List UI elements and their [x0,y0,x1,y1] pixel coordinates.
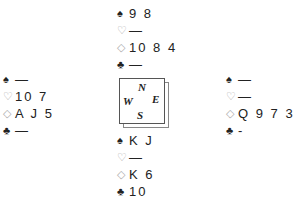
south-diamonds: ◇K 6 [117,166,155,183]
west-diamonds: ◇A J 5 [3,105,54,122]
compass-north-label: N [138,81,146,93]
heart-icon: ♡ [3,88,15,105]
diamond-icon: ◇ [117,39,129,56]
north-hand: ♠9 8 ♡— ◇10 8 4 ♣— [117,5,177,73]
east-hearts: ♡— [226,88,295,105]
diamond-icon: ◇ [117,166,129,183]
compass-east-label: E [152,93,159,105]
north-clubs: ♣— [117,56,177,73]
heart-icon: ♡ [117,22,129,39]
compass-west-label: W [123,95,133,107]
club-icon: ♣ [3,122,15,139]
south-spades: ♠K J [117,132,155,149]
south-hand: ♠K J ♡— ◇K 6 ♣10 [117,132,155,200]
club-icon: ♣ [117,183,129,200]
north-diamonds: ◇10 8 4 [117,39,177,56]
east-clubs: ♣- [226,122,295,139]
spade-icon: ♠ [3,71,15,88]
east-diamonds: ◇Q 9 7 3 2 [226,105,295,122]
west-hearts: ♡10 7 [3,88,54,105]
compass-box: N W E S [119,78,165,124]
heart-icon: ♡ [117,149,129,166]
spade-icon: ♠ [226,71,238,88]
club-icon: ♣ [226,122,238,139]
club-icon: ♣ [117,56,129,73]
south-hearts: ♡— [117,149,155,166]
east-hand: ♠— ♡— ◇Q 9 7 3 2 ♣- [226,71,295,139]
east-spades: ♠— [226,71,295,88]
west-hand: ♠— ♡10 7 ◇A J 5 ♣— [3,71,54,139]
south-clubs: ♣10 [117,183,155,200]
north-hearts: ♡— [117,22,177,39]
spade-icon: ♠ [117,5,129,22]
diamond-icon: ◇ [3,105,15,122]
west-clubs: ♣— [3,122,54,139]
heart-icon: ♡ [226,88,238,105]
west-spades: ♠— [3,71,54,88]
compass-south-label: S [137,109,143,121]
north-spades: ♠9 8 [117,5,177,22]
diamond-icon: ◇ [226,105,238,122]
spade-icon: ♠ [117,132,129,149]
